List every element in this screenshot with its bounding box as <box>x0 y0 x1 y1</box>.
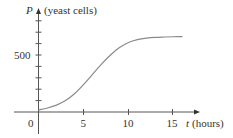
x-axis-unit: (hours) <box>192 117 224 130</box>
x-tick-label-15: 15 <box>167 117 179 129</box>
x-axis-arrow-icon <box>194 110 200 115</box>
y-tick-label-500: 500 <box>14 49 31 61</box>
y-axis-unit: (yeast cells) <box>44 4 97 17</box>
x-tick-label-10: 10 <box>123 117 135 129</box>
x-tick-label-5: 5 <box>81 117 87 129</box>
logistic-growth-chart: P (yeast cells) 500 0 5 10 15 t (hours) <box>0 0 233 138</box>
y-axis-arrow-icon <box>36 8 41 14</box>
origin-label: 0 <box>28 117 34 129</box>
growth-curve <box>39 37 183 110</box>
y-axis-variable: P <box>25 4 33 16</box>
x-axis-variable: t <box>186 117 190 129</box>
